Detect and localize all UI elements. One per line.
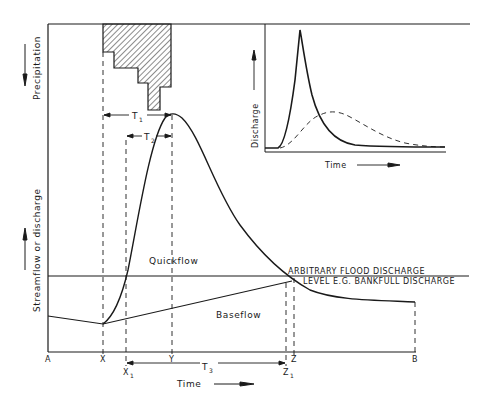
marker-x1: X [123, 368, 129, 377]
t1-label: T [131, 111, 138, 121]
t2-label: T [143, 132, 150, 142]
inset-ylabel: Discharge [251, 103, 260, 148]
flood-annotation-line1: ARBITRARY FLOOD DISCHARGE [288, 267, 425, 276]
streamflow-up-arrow-icon [23, 228, 27, 270]
inset-xlabel: Time [324, 161, 347, 170]
hyetograph [103, 24, 171, 110]
inset-chart: Discharge Time [251, 24, 446, 170]
precipitation-axis-label: Precipitation [32, 36, 42, 100]
marker-y: Y [168, 355, 174, 364]
marker-z: Z [291, 355, 297, 364]
inset-up-arrow-icon [252, 50, 256, 90]
t3-label: T [201, 362, 208, 372]
marker-x: X [100, 355, 106, 364]
t1-subscript: 1 [139, 116, 143, 123]
hydrograph-diagram: T 1 T 2 T 3 A X X 1 Y Z Z 1 B Time Quick… [0, 0, 481, 407]
marker-z1: Z [283, 368, 289, 377]
quickflow-label: Quickflow [149, 256, 198, 266]
marker-a: A [45, 355, 51, 364]
inset-right-arrow-icon [357, 163, 400, 167]
t3-subscript: 3 [209, 367, 213, 374]
marker-z1-sub: 1 [290, 372, 294, 379]
time-arrow-icon [214, 382, 254, 386]
inset-solid-curve [265, 30, 445, 148]
precipitation-down-arrow-icon [23, 44, 27, 86]
marker-x1-sub: 1 [130, 372, 134, 379]
baseflow-label: Baseflow [216, 310, 261, 320]
marker-b: B [412, 355, 418, 364]
inset-dashed-curve [280, 112, 445, 148]
streamflow-axis-label: Streamflow or discharge [32, 188, 42, 312]
flood-annotation-line2: LEVEL E.G. BANKFULL DISCHARGE [303, 277, 455, 286]
time-axis-label: Time [176, 379, 201, 389]
axes-frame [48, 24, 470, 352]
t2-subscript: 2 [151, 137, 155, 144]
